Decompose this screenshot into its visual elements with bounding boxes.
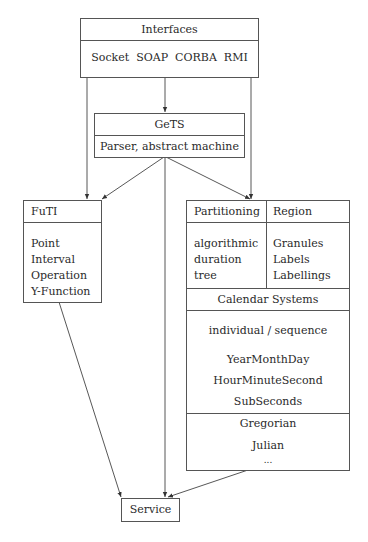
calendar-systems-mode: individual / sequence: [187, 324, 349, 338]
divider: [81, 40, 258, 41]
divider: [187, 222, 349, 223]
region-items: Granules Labels Labellings: [273, 236, 331, 284]
region-item-labels: Labels: [273, 252, 331, 268]
calendar-system-yearmonthday: YearMonthDay: [187, 353, 349, 367]
calendar-system-subseconds: SubSeconds: [187, 395, 349, 409]
calendar-box: Partitioning Region algorithmic duration…: [186, 200, 350, 471]
protocol-corba: CORBA: [175, 51, 217, 64]
arrow-calendar-service: [168, 470, 248, 497]
divider: [187, 288, 349, 289]
partitioning-items: algorithmic duration tree: [194, 236, 258, 284]
partitioning-title: Partitioning: [194, 205, 260, 219]
protocol-rmi: RMI: [224, 51, 248, 64]
partitioning-item-tree: tree: [194, 268, 258, 284]
futi-items: Point Interval Operation Y-Function: [31, 236, 90, 300]
divider: [187, 310, 349, 311]
region-title: Region: [273, 205, 312, 219]
interfaces-box: Interfaces Socket SOAP CORBA RMI: [80, 18, 259, 78]
region-item-labellings: Labellings: [273, 268, 331, 284]
protocol-socket: Socket: [91, 51, 129, 64]
partitioning-item-duration: duration: [194, 252, 258, 268]
interfaces-protocols: Socket SOAP CORBA RMI: [81, 51, 258, 65]
futi-item-operation: Operation: [31, 268, 90, 284]
gets-title: GeTS: [95, 118, 244, 132]
service-box: Service: [121, 498, 180, 522]
calendar-julian: Julian: [187, 439, 349, 453]
calendar-systems-title: Calendar Systems: [187, 293, 349, 307]
arrow-futi-service: [59, 302, 121, 497]
futi-item-point: Point: [31, 236, 90, 252]
calendar-gregorian: Gregorian: [187, 417, 349, 431]
protocol-soap: SOAP: [136, 51, 168, 64]
divider: [95, 135, 244, 136]
interfaces-title: Interfaces: [81, 23, 258, 37]
gets-box: GeTS Parser, abstract machine: [94, 113, 245, 158]
divider: [24, 222, 101, 223]
futi-item-interval: Interval: [31, 252, 90, 268]
futi-title: FuTI: [31, 205, 57, 219]
divider: [266, 201, 267, 289]
service-title: Service: [122, 503, 179, 517]
gets-subtitle: Parser, abstract machine: [95, 140, 244, 154]
calendar-system-hourminutesecond: HourMinuteSecond: [187, 374, 349, 388]
futi-box: FuTI Point Interval Operation Y-Function: [23, 200, 102, 303]
arrow-gets-partitioning: [166, 157, 250, 199]
region-item-granules: Granules: [273, 236, 331, 252]
partitioning-item-algorithmic: algorithmic: [194, 236, 258, 252]
divider: [187, 413, 349, 414]
futi-item-y-function: Y-Function: [31, 284, 90, 300]
arrow-gets-futi: [102, 157, 164, 199]
calendar-more-ellipsis: ...: [187, 453, 349, 467]
